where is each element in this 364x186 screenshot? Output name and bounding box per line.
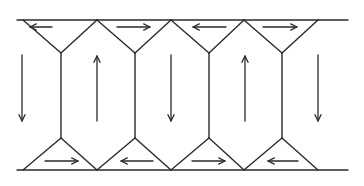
top-edge-right xyxy=(282,20,318,53)
bottom-edge-right xyxy=(282,138,318,170)
arrow-right-icon xyxy=(263,24,297,30)
arrow-up-icon xyxy=(242,56,248,121)
bottom-edge-right xyxy=(61,138,97,170)
arrow-right-icon xyxy=(117,24,150,30)
top-edge-left xyxy=(23,20,61,53)
arrow-left-icon xyxy=(268,158,298,164)
arrow-down-icon xyxy=(315,55,321,121)
arrow-left-icon xyxy=(193,24,226,30)
top-edge-right xyxy=(209,20,244,53)
cell-boundaries xyxy=(17,20,348,170)
top-edge-left xyxy=(244,20,282,53)
arrow-down-icon xyxy=(19,55,25,121)
top-edge-right xyxy=(61,20,97,53)
arrow-left-icon xyxy=(30,24,52,30)
bottom-edge-right xyxy=(209,138,244,170)
arrow-right-icon xyxy=(192,158,225,164)
hexagonal-flow-diagram xyxy=(0,0,364,186)
arrow-left-icon xyxy=(121,158,153,164)
bottom-edge-right xyxy=(135,138,171,170)
top-edge-left xyxy=(171,20,209,53)
bottom-edge-left xyxy=(171,138,209,170)
arrow-up-icon xyxy=(94,56,100,121)
top-edge-right xyxy=(135,20,171,53)
arrow-down-icon xyxy=(168,55,174,121)
bottom-edge-left xyxy=(97,138,135,170)
bottom-edge-left xyxy=(244,138,282,170)
top-edge-left xyxy=(97,20,135,53)
bottom-edge-left xyxy=(23,138,61,170)
arrow-right-icon xyxy=(45,158,78,164)
